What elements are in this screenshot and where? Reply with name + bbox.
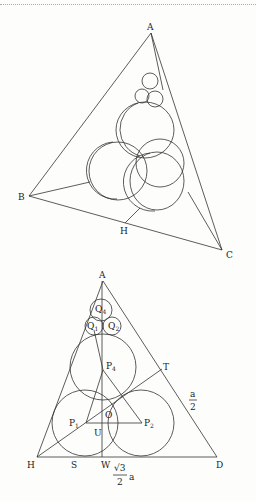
tetrahedron-figure	[29, 33, 222, 250]
label-Q4: Q4	[95, 304, 106, 315]
label-P1: P1	[69, 418, 79, 429]
label-C-top: C	[226, 250, 233, 260]
base-label-variable: a	[129, 472, 135, 482]
label-Q1: Q1	[87, 321, 98, 332]
label-B-top: B	[18, 192, 25, 202]
side-label-denominator: 2	[190, 402, 196, 412]
label-S: S	[71, 460, 77, 470]
label-H-bottom: H	[27, 460, 35, 470]
label-O: O	[105, 410, 112, 420]
label-A-top: A	[146, 22, 154, 32]
label-U: U	[94, 428, 102, 438]
label-P2: P2	[144, 418, 154, 429]
geometry-figures: A B C H A H D S W T O U P4 P1 P2 Q4 Q1 Q…	[0, 0, 256, 501]
base-label-denominator: 2	[117, 477, 123, 487]
label-A-bottom: A	[98, 270, 106, 280]
label-Q2: Q2	[108, 321, 119, 332]
base-label-numerator: √3	[114, 463, 126, 473]
label-W: W	[101, 460, 111, 470]
cross-section-figure	[37, 281, 217, 457]
label-H-top: H	[120, 226, 128, 236]
label-P4: P4	[106, 361, 116, 372]
label-D: D	[216, 460, 223, 470]
label-T: T	[163, 362, 169, 372]
side-label-numerator: a	[190, 389, 196, 399]
